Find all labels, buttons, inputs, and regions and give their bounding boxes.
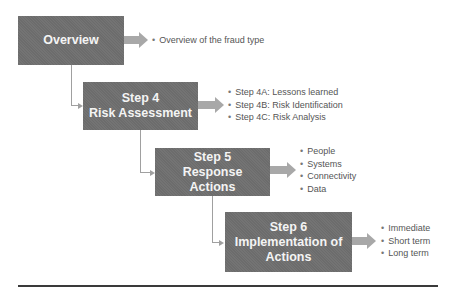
step-number: Step 4 [122, 91, 160, 106]
arrow-right-icon [270, 162, 296, 178]
bullet-item: Overview of the fraud type [152, 34, 264, 47]
step-number: Step 6 [270, 220, 308, 235]
bullet-item: Connectivity [300, 170, 356, 183]
step-box-risk-assessment: Step 4 Risk Assessment [83, 82, 198, 130]
step-title: Implementation of [235, 235, 343, 250]
step-title: Response Actions [159, 165, 266, 195]
risk-assessment-bullets: Step 4A: Lessons learned Step 4B: Risk I… [228, 86, 343, 124]
arrow-right-icon [198, 97, 224, 113]
bullet-item: People [300, 145, 356, 158]
connector-arrowhead-icon [219, 240, 224, 246]
overview-bullets: Overview of the fraud type [152, 34, 264, 47]
step-title: Overview [43, 33, 99, 48]
step-number: Step 5 [194, 150, 232, 165]
step-title: Risk Assessment [89, 106, 192, 121]
arrow-right-icon [124, 32, 148, 48]
connector-line [212, 196, 221, 243]
bullet-item: Immediate [381, 222, 430, 235]
connector-line [71, 65, 80, 106]
bullet-item: Step 4C: Risk Analysis [228, 111, 343, 124]
arrow-right-icon [352, 233, 376, 249]
implementation-bullets: Immediate Short term Long term [381, 222, 430, 260]
step-box-overview: Overview [18, 16, 124, 65]
connector-line [140, 130, 151, 173]
bullet-item: Step 4A: Lessons learned [228, 86, 343, 99]
bullet-item: Data [300, 183, 356, 196]
bullet-item: Short term [381, 235, 430, 248]
bullet-item: Systems [300, 158, 356, 171]
response-actions-bullets: People Systems Connectivity Data [300, 145, 356, 195]
step-box-implementation: Step 6 Implementation of Actions [225, 212, 352, 272]
bullet-item: Long term [381, 247, 430, 260]
bottom-rule-divider [18, 285, 438, 287]
bullet-item: Step 4B: Risk Identification [228, 99, 343, 112]
step-box-response-actions: Step 5 Response Actions [155, 148, 270, 196]
step-title-cont: Actions [266, 250, 312, 265]
